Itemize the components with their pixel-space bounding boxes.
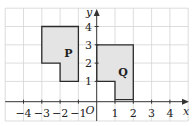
y-axis-arrow-icon [94,9,100,16]
shape-p-label: P [64,47,72,60]
x-tick-label: −3 [34,107,50,120]
x-tick-label: 2 [130,107,137,120]
x-tick-label: 3 [148,107,155,120]
y-tick-label: 2 [85,57,92,70]
shape-q-label: Q [118,66,128,79]
axes [5,9,189,121]
x-tick-label: 4 [166,107,173,120]
y-tick-label: 3 [85,39,92,52]
x-axis-label: x [183,105,190,118]
x-tick-label: 1 [112,107,119,120]
x-tick-label: −4 [15,107,31,120]
y-tick-label: 4 [85,21,92,34]
coordinate-grid-diagram: −4 −3 −2 −1 1 2 3 4 1 2 3 4 y x O P Q [0,0,194,126]
x-tick-label: −1 [70,107,86,120]
origin-label: O [85,104,94,117]
y-tick-labels: 1 2 3 4 [85,21,92,89]
x-tick-label: −2 [52,107,68,120]
y-axis-label: y [85,6,93,19]
shape-q [97,45,134,100]
shape-p [42,27,79,82]
y-tick-label: 1 [85,75,92,88]
